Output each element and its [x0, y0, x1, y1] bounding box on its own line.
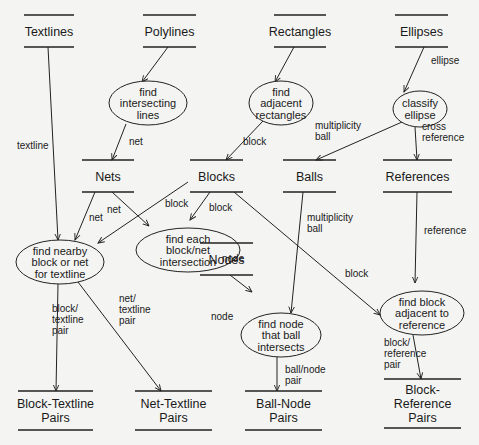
flow-arrow-references-to-find-block-adjacent-reference: [415, 192, 417, 283]
edge-label: multiplicityball: [307, 212, 353, 234]
store-label: Blocks: [198, 170, 235, 184]
store-label: References: [386, 170, 450, 184]
process-find-adjacent-rectangles: findadjacentrectangles: [249, 81, 313, 125]
flow-arrow-classify-ellipse-to-references: [415, 127, 417, 160]
flow-arrow-find-nearby-block-or-net-to-block-textline-pairs: [56, 284, 58, 391]
store-label: Net-TextlinePairs: [141, 397, 207, 425]
store-block-textline-pairs: Block-TextlinePairs: [17, 391, 94, 430]
edge-label: net: [129, 136, 143, 147]
process-label: find nearbyblock or netfor textline: [32, 245, 89, 280]
store-label: Block-TextlinePairs: [17, 397, 94, 425]
flow-arrow-find-intersecting-lines-to-nets: [112, 124, 126, 160]
edge-label: multiplicityball: [315, 120, 361, 142]
edge-label: block: [345, 268, 369, 279]
flow-arrow-blocks-to-find-block-adjacent-reference: [234, 192, 380, 315]
flow-arrow-textlines-to-find-nearby-block-or-net: [48, 47, 58, 240]
process-label: find nodethat ballintersects: [257, 318, 305, 353]
store-label: Ellipses: [400, 25, 443, 39]
edge-label: ball/nodepair: [285, 364, 326, 386]
flow-arrow-balls-to-find-node-ball-intersects: [291, 192, 303, 313]
edge-label: net/textlinepair: [119, 293, 151, 326]
process-find-block-adjacent-reference: find blockadjacent toreference: [380, 291, 464, 335]
store-nets: Nets: [82, 160, 134, 192]
edge-label: node: [211, 311, 234, 322]
store-label: Polylines: [144, 25, 194, 39]
edge-label: net: [89, 212, 103, 223]
store-ball-node-pairs: Ball-NodePairs: [245, 391, 322, 430]
store-net-textline-pairs: Net-TextlinePairs: [135, 391, 212, 430]
store-ellipses: Ellipses: [395, 15, 448, 47]
flow-arrow-nodes-to-find-node-ball-intersects: [230, 275, 252, 292]
store-rectangles: Rectangles: [269, 15, 332, 47]
store-label: Rectangles: [269, 25, 332, 39]
edge-label: block: [165, 198, 189, 209]
diagram-svg: findintersectinglinesfindadjacentrectang…: [0, 0, 479, 445]
edge-label: node: [222, 253, 245, 264]
store-textlines: Textlines: [24, 15, 74, 47]
store-label: Block-ReferencePairs: [394, 383, 452, 425]
edge-label: crossreference: [422, 121, 465, 143]
store-label: Balls: [296, 170, 323, 184]
store-label: Textlines: [25, 25, 74, 39]
edge-label: block/textlinepair: [52, 303, 84, 336]
edge-label: ellipse: [431, 55, 460, 66]
store-references: References: [383, 160, 452, 192]
process-find-intersecting-lines: findintersectinglines: [109, 81, 187, 125]
store-label: Nets: [95, 170, 121, 184]
flow-arrow-blocks-to-find-block-net-intersection: [190, 192, 210, 220]
edge-label: block: [209, 202, 233, 213]
store-polylines: Polylines: [143, 15, 196, 47]
edge-label: block: [243, 136, 267, 147]
process-find-nearby-block-or-net: find nearbyblock or netfor textline: [16, 240, 104, 284]
store-balls: Balls: [283, 160, 336, 192]
store-label: Ball-NodePairs: [256, 397, 311, 425]
flow-arrow-rectangles-to-find-adjacent-rectangles: [275, 47, 294, 82]
store-blocks: Blocks: [190, 160, 243, 192]
edge-label: block/referencepair: [384, 337, 427, 370]
process-label: find blockadjacent toreference: [395, 296, 449, 331]
process-find-node-ball-intersects: find nodethat ballintersects: [241, 313, 321, 357]
flow-arrow-ellipses-to-classify-ellipse: [404, 47, 424, 92]
store-block-reference-pairs: Block-ReferencePairs: [384, 379, 461, 428]
data-flow-diagram: findintersectinglinesfindadjacentrectang…: [0, 0, 479, 445]
edges: [48, 47, 424, 391]
edge-label: net: [107, 204, 121, 215]
flow-arrow-polylines-to-find-intersecting-lines: [142, 47, 168, 82]
process-label: classifyellipse: [402, 97, 439, 121]
edge-label: reference: [424, 225, 467, 236]
edge-label: textline: [17, 140, 49, 151]
